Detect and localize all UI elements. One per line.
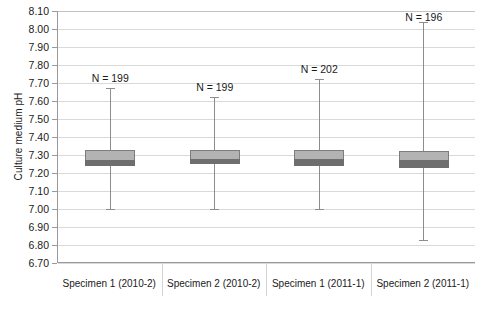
whisker-lower	[423, 168, 424, 240]
category-separator	[266, 264, 267, 296]
x-category-label: Specimen 2 (2010-2)	[162, 278, 267, 289]
whisker-upper	[110, 88, 111, 149]
y-tick-label: 7.10	[29, 186, 49, 196]
box-plot-group[interactable]: N = 199	[163, 11, 268, 263]
sample-size-label: N = 202	[301, 63, 338, 75]
plot-area: N = 199N = 199N = 202N = 196	[57, 11, 475, 263]
y-tick-label: 6.80	[29, 240, 49, 250]
category-separator	[162, 264, 163, 296]
y-tick-label: 8.00	[29, 24, 49, 34]
y-tick-label: 7.30	[29, 150, 49, 160]
whisker-cap-lower	[315, 209, 324, 210]
whisker-lower	[214, 164, 215, 209]
median-band	[399, 160, 449, 167]
x-axis-category-labels: Specimen 1 (2010-2)Specimen 2 (2010-2)Sp…	[57, 264, 475, 296]
x-category-label: Specimen 1 (2010-2)	[57, 278, 162, 289]
box-plot-group[interactable]: N = 199	[58, 11, 163, 263]
y-tick-label: 7.40	[29, 132, 49, 142]
box-plot-chart: Culture medium pH 8.108.007.907.807.707.…	[0, 0, 481, 311]
y-tick-label: 8.10	[29, 6, 49, 16]
category-separator	[371, 264, 372, 296]
y-axis-tick-labels: 8.108.007.907.807.707.607.507.407.307.20…	[0, 0, 57, 311]
y-tick-label: 6.70	[29, 258, 49, 268]
y-tick-label: 7.60	[29, 96, 49, 106]
whisker-lower	[110, 166, 111, 209]
whisker-cap-lower	[210, 209, 219, 210]
y-tick-label: 7.70	[29, 78, 49, 88]
median-band	[190, 159, 240, 164]
y-tick-label: 7.80	[29, 60, 49, 70]
whisker-cap-upper	[210, 97, 219, 98]
median-band	[294, 159, 344, 166]
whisker-cap-upper	[315, 79, 324, 80]
x-category-label: Specimen 1 (2011-1)	[266, 278, 371, 289]
y-tick-label: 7.20	[29, 168, 49, 178]
sample-size-label: N = 196	[405, 11, 442, 23]
y-tick-label: 7.90	[29, 42, 49, 52]
whisker-upper	[319, 79, 320, 149]
y-tick-label: 7.00	[29, 204, 49, 214]
y-tick-label: 7.50	[29, 114, 49, 124]
whisker-cap-lower	[419, 240, 428, 241]
sample-size-label: N = 199	[92, 72, 129, 84]
box-plot-group[interactable]: N = 202	[267, 11, 372, 263]
box-plot-group[interactable]: N = 196	[372, 11, 477, 263]
whisker-cap-lower	[106, 209, 115, 210]
y-tick-label: 6.90	[29, 222, 49, 232]
whisker-upper	[423, 22, 424, 152]
whisker-upper	[214, 97, 215, 149]
x-category-label: Specimen 2 (2011-1)	[371, 278, 476, 289]
median-band	[85, 160, 135, 165]
sample-size-label: N = 199	[196, 81, 233, 93]
whisker-cap-upper	[106, 88, 115, 89]
whisker-lower	[319, 166, 320, 209]
